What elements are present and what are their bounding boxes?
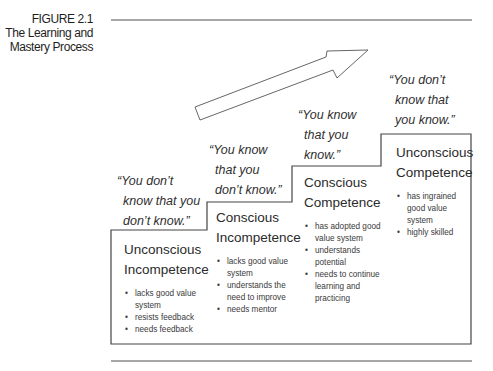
- stage-1-unconscious-incompetence: Unconscious Incompetence lacks good valu…: [124, 240, 209, 336]
- title-line: Unconscious: [124, 240, 209, 260]
- bullet-item: understands theneed to improve: [216, 280, 301, 304]
- bullet-item: needs feedback: [124, 324, 209, 336]
- title-line: Incompetence: [124, 260, 209, 280]
- title-line: Unconscious: [396, 143, 473, 163]
- bullet-item: understandspotential: [304, 245, 381, 269]
- bullet-item: has adopted goodvalue system: [304, 221, 381, 245]
- bullet-item: has ingrainedgood valuesystem: [396, 191, 473, 227]
- title-line: Conscious: [304, 173, 381, 193]
- stage-2-title: Conscious Incompetence: [216, 208, 301, 248]
- stage-1-bullets: lacks good valuesystem resists feedback …: [124, 288, 209, 336]
- stage-4-unconscious-competence: Unconscious Competence has ingrainedgood…: [396, 143, 473, 239]
- stage-2-conscious-incompetence: Conscious Incompetence lacks good values…: [216, 208, 301, 316]
- stage-1-title: Unconscious Incompetence: [124, 240, 209, 280]
- stage-3-conscious-competence: Conscious Competence has adopted goodval…: [304, 173, 381, 305]
- quote-line: “You don’t: [389, 70, 455, 90]
- quote-line: know that: [389, 90, 455, 110]
- quote-line: don’t know.”: [117, 211, 200, 231]
- stage-3-title: Conscious Competence: [304, 173, 381, 213]
- quote-line: don’t know.”: [209, 180, 282, 200]
- stage-3-bullets: has adopted goodvalue system understands…: [304, 221, 381, 305]
- quote-line: that you: [209, 160, 282, 180]
- stage-4-title: Unconscious Competence: [396, 143, 473, 183]
- quote-line: “You don’t: [117, 171, 200, 191]
- stage-1-quote: “You don’t know that you don’t know.”: [117, 171, 200, 231]
- stage-4-quote: “You don’t know that you know.”: [389, 70, 455, 130]
- quote-line: you know.”: [389, 110, 455, 130]
- bullet-item: needs to continuelearning andpracticing: [304, 269, 381, 305]
- quote-line: “You know: [209, 140, 282, 160]
- title-line: Competence: [304, 193, 381, 213]
- bullet-item: resists feedback: [124, 312, 209, 324]
- quote-line: know that you: [117, 191, 200, 211]
- bullet-item: needs mentor: [216, 304, 301, 316]
- title-line: Competence: [396, 163, 473, 183]
- title-line: Incompetence: [216, 228, 301, 248]
- bullet-item: lacks good valuesystem: [124, 288, 209, 312]
- stage-2-quote: “You know that you don’t know.”: [209, 140, 282, 200]
- bullet-item: lacks good valuesystem: [216, 256, 301, 280]
- stage-4-bullets: has ingrainedgood valuesystem highly ski…: [396, 191, 473, 239]
- quote-line: that you: [298, 125, 356, 145]
- quote-line: “You know: [298, 105, 356, 125]
- stage-2-bullets: lacks good valuesystem understands thene…: [216, 256, 301, 316]
- stage-3-quote: “You know that you know.”: [298, 105, 356, 165]
- title-line: Conscious: [216, 208, 301, 228]
- bullet-item: highly skilled: [396, 227, 473, 239]
- quote-line: know.”: [298, 145, 356, 165]
